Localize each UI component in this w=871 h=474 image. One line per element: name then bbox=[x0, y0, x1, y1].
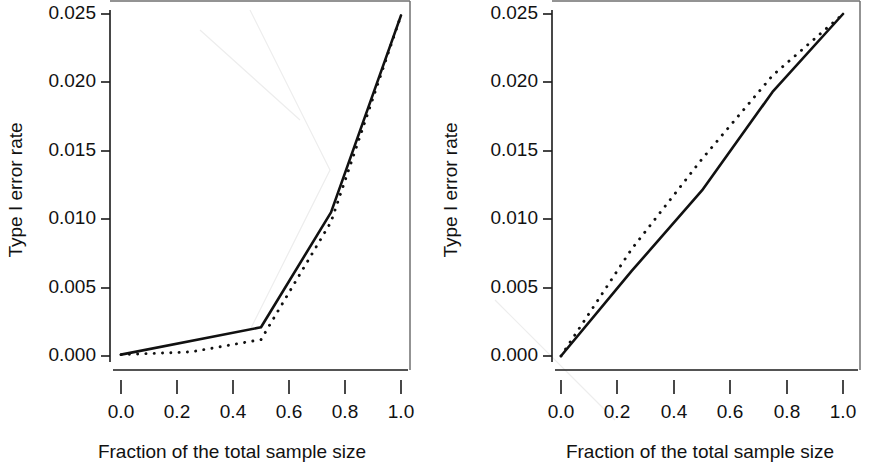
x-axis-title: Fraction of the total sample size bbox=[566, 441, 834, 462]
y-tick-label: 0.020 bbox=[490, 70, 538, 91]
series-solid-line bbox=[561, 14, 843, 356]
x-tick-label: 0.2 bbox=[604, 401, 630, 422]
x-tick-label: 1.0 bbox=[830, 401, 856, 422]
x-tick-label: 0.2 bbox=[164, 401, 190, 422]
y-tick-label: 0.010 bbox=[490, 207, 538, 228]
chart-panel-right: 0.025 0.020 0.015 0.010 0.005 0.000 0.0 … bbox=[435, 0, 871, 474]
x-tick-label: 0.8 bbox=[774, 401, 800, 422]
x-tick-label: 0.6 bbox=[717, 401, 743, 422]
x-tick-label: 0.8 bbox=[332, 401, 358, 422]
right-y-axis-ticks bbox=[543, 14, 552, 356]
x-tick-label: 0.0 bbox=[548, 401, 574, 422]
chart-panel-left: 0.025 0.020 0.015 0.010 0.005 0.000 0.0 … bbox=[0, 0, 435, 474]
series-dotted-line bbox=[121, 15, 401, 354]
left-y-tick-labels: 0.025 0.020 0.015 0.010 0.005 0.000 bbox=[48, 2, 96, 365]
y-tick-label: 0.000 bbox=[490, 344, 538, 365]
y-tick-label: 0.015 bbox=[490, 139, 538, 160]
x-tick-label: 0.6 bbox=[276, 401, 302, 422]
y-tick-label: 0.005 bbox=[490, 276, 538, 297]
right-data-series bbox=[561, 14, 843, 356]
scan-artifacts bbox=[200, 10, 330, 330]
right-y-tick-labels: 0.025 0.020 0.015 0.010 0.005 0.000 bbox=[490, 2, 538, 365]
right-x-tick-labels: 0.0 0.2 0.4 0.6 0.8 1.0 bbox=[548, 401, 856, 422]
left-x-tick-labels: 0.0 0.2 0.4 0.6 0.8 1.0 bbox=[108, 401, 414, 422]
y-axis-title: Type I error rate bbox=[440, 122, 461, 257]
x-axis-title: Fraction of the total sample size bbox=[98, 441, 366, 462]
right-x-axis-ticks bbox=[561, 380, 843, 394]
left-x-axis-ticks bbox=[121, 380, 401, 394]
left-y-axis-ticks bbox=[101, 14, 110, 356]
y-axis-title: Type I error rate bbox=[5, 122, 26, 257]
series-solid-line bbox=[121, 15, 401, 354]
y-tick-label: 0.010 bbox=[48, 207, 96, 228]
x-tick-label: 0.4 bbox=[220, 401, 247, 422]
left-data-series bbox=[121, 15, 401, 354]
left-plot-frame bbox=[110, 1, 410, 370]
left-panel-svg: 0.025 0.020 0.015 0.010 0.005 0.000 0.0 … bbox=[0, 0, 435, 474]
y-tick-label: 0.020 bbox=[48, 70, 96, 91]
y-tick-label: 0.005 bbox=[48, 276, 96, 297]
right-panel-svg: 0.025 0.020 0.015 0.010 0.005 0.000 0.0 … bbox=[435, 0, 871, 474]
x-tick-label: 1.0 bbox=[388, 401, 414, 422]
two-panel-line-chart-figure: 0.025 0.020 0.015 0.010 0.005 0.000 0.0 … bbox=[0, 0, 871, 474]
y-tick-label: 0.025 bbox=[490, 2, 538, 23]
y-tick-label: 0.000 bbox=[48, 344, 96, 365]
y-tick-label: 0.025 bbox=[48, 2, 96, 23]
x-tick-label: 0.0 bbox=[108, 401, 134, 422]
x-tick-label: 0.4 bbox=[661, 401, 688, 422]
y-tick-label: 0.015 bbox=[48, 139, 96, 160]
